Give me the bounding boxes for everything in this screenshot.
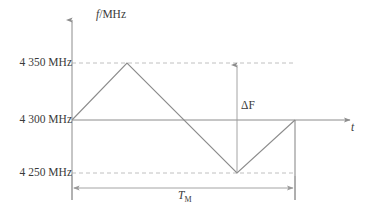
delta-f-label: ΔF <box>241 100 255 112</box>
x-axis-title: t <box>351 122 354 134</box>
fmcw-frequency-sweep-figure: f/MHz t 4 350 MHz 4 300 MHz 4 250 MHz ΔF… <box>0 0 367 213</box>
fmcw-waveform <box>72 63 295 173</box>
y-axis-title: f/MHz <box>96 9 126 21</box>
y-tick-label-4350: 4 350 MHz <box>4 57 72 69</box>
modulation-period-label: TM <box>178 190 192 202</box>
y-tick-label-4250: 4 250 MHz <box>4 167 72 179</box>
modulation-period-label-subscript: M <box>184 195 191 204</box>
chart-canvas <box>0 0 367 213</box>
y-tick-label-4300: 4 300 MHz <box>4 114 72 126</box>
y-axis-title-unit: /MHz <box>99 8 126 20</box>
